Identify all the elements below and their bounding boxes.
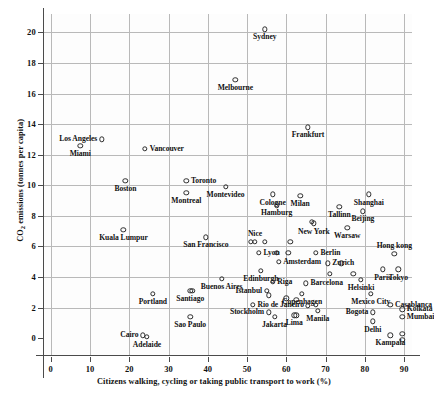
x-tick-mark xyxy=(365,357,366,362)
y-tick-mark xyxy=(38,124,43,125)
data-point-label: New York xyxy=(298,228,330,236)
y-tick-label: 2 xyxy=(20,303,36,313)
y-tick-label: 6 xyxy=(20,241,36,251)
y-tick-label: 12 xyxy=(20,150,36,160)
y-tick-mark xyxy=(38,277,43,278)
data-point-label: Jakarta xyxy=(262,321,287,329)
gridline-horizontal xyxy=(43,124,412,125)
x-tick-mark xyxy=(404,357,405,362)
data-point-label: Hamburg xyxy=(261,209,292,217)
data-point-label: Warsaw xyxy=(334,232,360,240)
data-point-label: Mexico City xyxy=(351,298,390,306)
x-tick-label: 30 xyxy=(164,364,173,374)
data-point-label: Shanghai xyxy=(354,199,384,207)
y-tick-mark xyxy=(38,246,43,247)
data-point-label: Hong kong xyxy=(377,242,412,250)
y-tick-mark xyxy=(38,63,43,64)
data-point-label: Manila xyxy=(306,315,329,323)
y-tick-label: 20 xyxy=(20,27,36,37)
data-point-label: Amsterdam xyxy=(283,258,321,266)
x-tick-mark xyxy=(208,357,209,362)
y-tick-label: 14 xyxy=(20,119,36,129)
x-tick-label: 0 xyxy=(49,364,53,374)
x-tick-mark xyxy=(169,357,170,362)
x-tick-label: 80 xyxy=(360,364,369,374)
x-tick-mark xyxy=(51,357,52,362)
x-axis-line xyxy=(36,355,420,356)
y-tick-mark xyxy=(38,32,43,33)
gridline-horizontal xyxy=(43,32,412,33)
gridline-horizontal xyxy=(43,94,412,95)
data-point-label: Sydney xyxy=(253,33,276,41)
y-tick-mark xyxy=(38,338,43,339)
data-point-label: Adelaide xyxy=(133,341,161,349)
data-point-label: Cologne xyxy=(260,199,286,207)
data-point-label: Montevideo xyxy=(207,191,245,199)
gridline-horizontal xyxy=(43,63,412,64)
x-tick-mark xyxy=(129,357,130,362)
x-axis-title: Citizens walking, cycling or taking publ… xyxy=(0,377,428,386)
x-tick-mark xyxy=(286,357,287,362)
data-point-label: Frankfurt xyxy=(292,131,324,139)
data-point-label: Tallinn xyxy=(328,211,351,219)
y-tick-label: 10 xyxy=(20,180,36,190)
data-point-label: Stockholm xyxy=(230,308,264,316)
data-point-label: Sao Paulo xyxy=(174,321,206,329)
data-point-label: Tokyo xyxy=(388,274,408,282)
y-tick-mark xyxy=(38,216,43,217)
data-point-label: Bogota xyxy=(346,308,368,316)
data-point-label: Nice xyxy=(248,230,262,238)
data-point-label: Lima xyxy=(286,319,303,327)
data-point-label: Cairo xyxy=(120,331,138,339)
gridline-horizontal xyxy=(43,277,412,278)
data-point-label: Mumbai xyxy=(407,313,434,321)
x-tick-mark xyxy=(326,357,327,362)
data-point-label: Kuala Lumpur xyxy=(99,234,148,242)
x-tick-mark xyxy=(247,357,248,362)
data-point-label: Milan xyxy=(291,200,310,208)
x-tick-label: 50 xyxy=(243,364,252,374)
y-tick-mark xyxy=(38,308,43,309)
data-point-label: Istanbul xyxy=(236,287,263,295)
data-point-label: San Francisco xyxy=(183,241,228,249)
y-tick-mark xyxy=(38,185,43,186)
data-point-label: Toronto xyxy=(191,177,216,185)
data-point-label: Miami xyxy=(70,150,91,158)
data-point-label: Berlin xyxy=(320,249,340,257)
y-tick-label: 16 xyxy=(20,89,36,99)
y-tick-label: 0 xyxy=(20,333,36,343)
data-point-label: Portland xyxy=(139,298,167,306)
x-tick-label: 20 xyxy=(125,364,134,374)
data-point-label: Riga xyxy=(277,278,292,286)
y-tick-label: 4 xyxy=(20,272,36,282)
data-point-label: Delhi xyxy=(364,326,381,334)
data-point-label: Barcelona xyxy=(311,279,343,287)
data-point-label: Santiago xyxy=(176,295,204,303)
y-tick-label: 18 xyxy=(20,58,36,68)
gridline-horizontal xyxy=(43,155,412,156)
x-tick-label: 60 xyxy=(282,364,291,374)
data-point-label: Beijing xyxy=(351,215,374,223)
x-tick-label: 10 xyxy=(86,364,95,374)
data-point-label: Boston xyxy=(114,185,136,193)
data-point-label: Melbourne xyxy=(218,84,253,92)
x-tick-label: 70 xyxy=(321,364,330,374)
y-tick-mark xyxy=(38,94,43,95)
x-tick-label: 40 xyxy=(203,364,212,374)
data-point-label: Montreal xyxy=(171,197,201,205)
data-point-label: Vancouver xyxy=(150,145,184,153)
x-tick-mark xyxy=(90,357,91,362)
y-axis-line xyxy=(43,8,44,378)
y-tick-label: 8 xyxy=(20,211,36,221)
y-tick-mark xyxy=(38,155,43,156)
x-tick-label: 90 xyxy=(400,364,409,374)
